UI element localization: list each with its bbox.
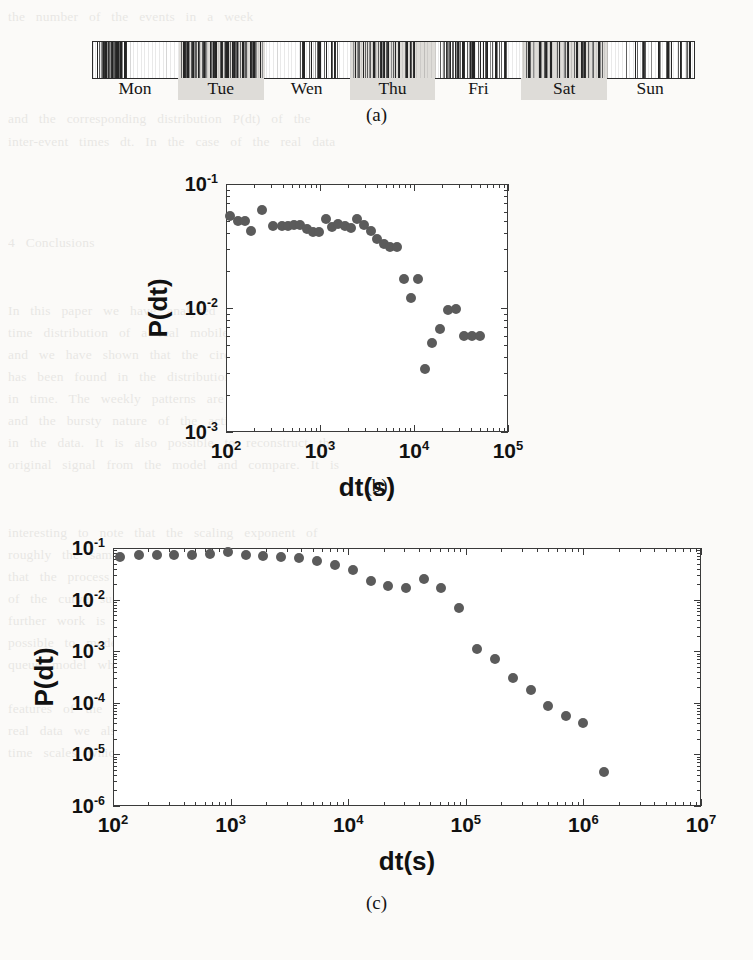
- event-line-faint: [95, 42, 96, 78]
- y-minor-tick: [113, 627, 117, 628]
- event-line: [440, 42, 441, 78]
- y-tick-label: 10-3: [72, 639, 105, 663]
- x-minor-tick: [305, 428, 306, 432]
- x-minor-tick: [205, 802, 206, 806]
- y-minor-tick-right: [697, 687, 701, 688]
- x-minor-tick: [219, 802, 220, 806]
- event-line-faint: [100, 42, 101, 78]
- y-tick-label: 10-1: [185, 172, 218, 196]
- event-line-faint: [449, 42, 450, 78]
- x-minor-tick: [640, 802, 641, 806]
- event-line-faint: [269, 42, 270, 78]
- event-line-faint: [365, 42, 366, 78]
- y-minor-tick-right: [504, 336, 508, 337]
- x-minor-tick: [348, 428, 349, 432]
- data-point: [508, 673, 518, 683]
- y-minor-tick: [113, 766, 117, 767]
- y-minor-tick-right: [697, 602, 701, 603]
- event-line: [593, 42, 594, 78]
- y-minor-tick-right: [697, 611, 701, 612]
- event-line-faint: [166, 42, 167, 78]
- event-line: [480, 42, 482, 78]
- x-minor-tick: [487, 428, 488, 432]
- panel-c-xlabel: dt(s): [379, 846, 435, 877]
- x-minor-tick: [448, 802, 449, 806]
- x-major-tick-top: [701, 548, 702, 555]
- y-minor-tick: [113, 723, 117, 724]
- x-minor-tick: [619, 802, 620, 806]
- event-line-faint: [644, 42, 645, 78]
- x-minor-tick: [565, 802, 566, 806]
- x-minor-tick-top: [148, 548, 149, 552]
- event-line-faint: [119, 42, 120, 78]
- x-minor-tick: [399, 428, 400, 432]
- event-line-faint: [170, 42, 171, 78]
- x-minor-tick: [316, 428, 317, 432]
- y-minor-tick: [113, 759, 117, 760]
- y-major-tick: [226, 308, 233, 309]
- x-minor-tick-top: [419, 548, 420, 552]
- x-minor-tick-top: [557, 548, 558, 552]
- event-line-faint: [637, 42, 638, 78]
- data-point: [346, 223, 356, 233]
- x-minor-tick-top: [322, 548, 323, 552]
- x-minor-tick: [299, 428, 300, 432]
- y-major-tick: [113, 600, 120, 601]
- day-label-mon: Mon: [92, 78, 178, 99]
- event-line-faint: [240, 42, 241, 78]
- x-minor-tick-top: [254, 184, 255, 188]
- data-point: [578, 718, 588, 728]
- event-line-faint: [152, 42, 153, 78]
- y-minor-tick: [113, 687, 117, 688]
- y-minor-tick: [113, 775, 117, 776]
- event-line-faint: [174, 42, 175, 78]
- y-minor-tick-right: [504, 373, 508, 374]
- x-minor-tick: [254, 428, 255, 432]
- y-minor-tick-right: [504, 203, 508, 204]
- y-minor-tick: [226, 357, 230, 358]
- data-point: [115, 552, 125, 562]
- x-tick-label: 106: [568, 812, 599, 837]
- x-minor-tick: [405, 428, 406, 432]
- data-point: [526, 685, 536, 695]
- data-point: [427, 338, 437, 348]
- y-minor-tick-right: [697, 714, 701, 715]
- data-point: [294, 553, 304, 563]
- y-minor-tick-right: [697, 656, 701, 657]
- day-label-fri: Fri: [435, 78, 521, 99]
- x-minor-tick: [283, 428, 284, 432]
- y-minor-tick: [113, 708, 117, 709]
- event-line-faint: [541, 42, 542, 78]
- data-point: [314, 227, 324, 237]
- x-minor-tick: [410, 428, 411, 432]
- event-line-faint: [214, 42, 215, 78]
- event-line-faint: [255, 42, 256, 78]
- event-line-faint: [144, 42, 145, 78]
- y-minor-tick: [226, 233, 230, 234]
- y-major-tick-right: [694, 703, 701, 704]
- event-line-faint: [328, 42, 329, 78]
- event-line-faint: [420, 42, 421, 78]
- y-major-tick-right: [694, 600, 701, 601]
- x-major-tick: [320, 425, 321, 432]
- event-line-faint: [108, 42, 109, 78]
- x-minor-tick-top: [343, 548, 344, 552]
- y-minor-tick-right: [697, 762, 701, 763]
- x-minor-tick: [442, 428, 443, 432]
- event-line-faint: [482, 42, 483, 78]
- event-line-faint: [372, 42, 373, 78]
- event-line-faint: [626, 42, 627, 78]
- y-minor-tick: [113, 705, 117, 706]
- data-point: [561, 711, 571, 721]
- event-line-faint: [655, 42, 656, 78]
- data-point: [543, 701, 553, 711]
- event-line-faint: [666, 42, 667, 78]
- y-minor-tick: [113, 711, 117, 712]
- x-minor-tick: [212, 802, 213, 806]
- x-minor-tick: [271, 428, 272, 432]
- x-minor-tick-top: [654, 548, 655, 552]
- y-minor-tick: [113, 550, 117, 551]
- x-minor-tick-top: [305, 184, 306, 188]
- y-minor-tick: [113, 659, 117, 660]
- y-minor-tick-right: [697, 620, 701, 621]
